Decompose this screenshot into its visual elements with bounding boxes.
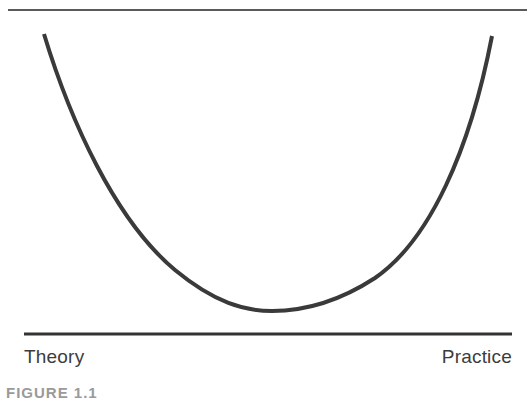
practice-label: Practice [442,346,512,368]
theory-label: Theory [24,346,84,368]
figure-caption: FIGURE 1.1 [6,384,98,401]
u-shaped-curve [44,34,492,311]
